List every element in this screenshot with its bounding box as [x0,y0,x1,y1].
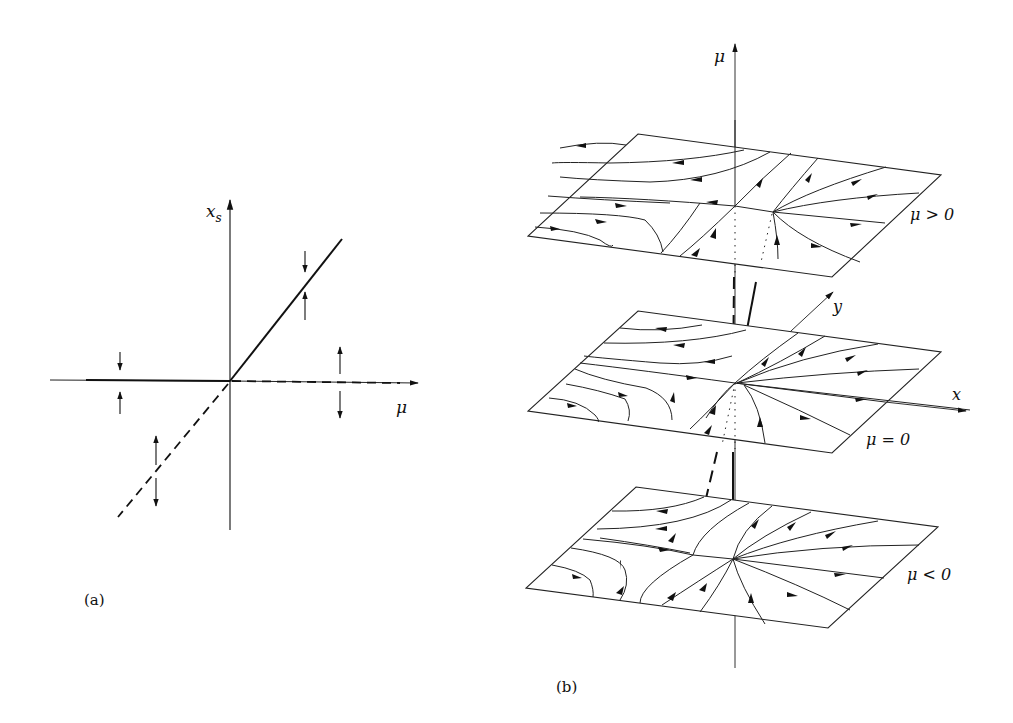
plane-label-mu-negative: μ < 0 [907,565,951,584]
plane-label-mu-zero: μ = 0 [866,430,910,449]
panel-a-caption: (a) [84,591,105,609]
mu-vertical-axis-label: μ [714,46,725,66]
unstable-branch-mu [118,384,228,517]
plane-mu-positive [528,120,941,277]
panel-b: μ [526,44,970,696]
stable-branch-mu [230,239,342,381]
plane-mu-negative [526,487,938,628]
transcritical-bifurcation-figure: xs μ (a) μ [0,0,1013,723]
mu-axis-label: μ [396,397,407,417]
x-axis-label: x [952,385,961,404]
stable-branch-zero [86,380,230,381]
panel-b-caption: (b) [556,678,577,696]
panel-a: xs μ (a) [50,200,418,609]
y-axis-label: y [832,297,843,316]
xs-axis-label: xs [206,201,222,225]
plane-label-mu-positive: μ > 0 [910,205,954,224]
